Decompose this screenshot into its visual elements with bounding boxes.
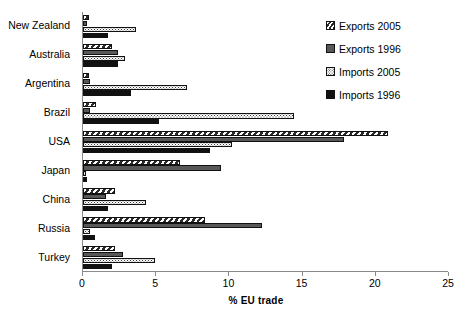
y-axis-label: Brazil (44, 107, 70, 118)
x-tick-mark (155, 272, 156, 276)
bar-chart: New ZealandAustraliaArgentinaBrazilUSAJa… (0, 0, 476, 326)
x-tick-label: 20 (369, 277, 381, 289)
bar (83, 188, 115, 193)
bar (83, 200, 146, 205)
bar (83, 73, 89, 78)
bar (83, 50, 118, 55)
bar (83, 235, 95, 240)
x-axis-title-text: % EU trade (229, 295, 284, 306)
bar (83, 15, 89, 20)
bar (83, 177, 87, 182)
y-axis-label: New Zealand (8, 20, 70, 31)
y-axis-category-labels: New ZealandAustraliaArgentinaBrazilUSAJa… (0, 12, 76, 272)
legend-label: Exports 2005 (339, 20, 401, 32)
bar (83, 44, 112, 49)
bar (83, 246, 115, 251)
legend-item: Imports 2005 (326, 62, 466, 81)
y-axis-label: USA (48, 136, 70, 147)
bar (83, 33, 108, 38)
x-tick-mark (82, 272, 83, 276)
x-axis-title: % EU trade (0, 295, 476, 306)
legend-swatch-icon (326, 90, 335, 99)
bar (83, 142, 232, 147)
bar (83, 108, 90, 113)
bar (83, 131, 388, 136)
legend-swatch-icon (326, 21, 335, 30)
bar (83, 113, 294, 118)
x-tick-mark (302, 272, 303, 276)
x-tick-label: 25 (442, 277, 454, 289)
legend: Exports 2005Exports 1996Imports 2005Impo… (326, 16, 466, 108)
bar (83, 258, 155, 263)
y-axis-label: Russia (38, 223, 70, 234)
bar (83, 21, 87, 26)
y-axis-label: Australia (29, 49, 70, 60)
y-axis-label: Turkey (38, 252, 70, 263)
legend-swatch-icon (326, 67, 335, 76)
bar (83, 171, 86, 176)
x-tick-mark (448, 272, 449, 276)
bar (83, 206, 108, 211)
bar (83, 85, 187, 90)
y-axis-label: China (43, 194, 70, 205)
bar (83, 252, 123, 257)
legend-label: Imports 1996 (339, 89, 400, 101)
x-tick-label: 0 (79, 277, 85, 289)
legend-label: Exports 1996 (339, 43, 401, 55)
bar (83, 194, 106, 199)
bar (83, 79, 90, 84)
bar (83, 119, 159, 124)
x-axis-ticks: 0510152025 (0, 272, 476, 294)
bar (83, 148, 210, 153)
x-tick-label: 10 (223, 277, 235, 289)
legend-item: Exports 2005 (326, 16, 466, 35)
bar (83, 223, 262, 228)
legend-item: Exports 1996 (326, 39, 466, 58)
bar (83, 217, 205, 222)
x-tick-mark (375, 272, 376, 276)
legend-swatch-icon (326, 44, 335, 53)
bar (83, 27, 136, 32)
bar (83, 90, 131, 95)
y-axis-label: Argentina (25, 78, 70, 89)
bar (83, 56, 125, 61)
bar (83, 61, 118, 66)
legend-label: Imports 2005 (339, 66, 400, 78)
x-tick-label: 5 (152, 277, 158, 289)
bar (83, 102, 96, 107)
bar (83, 264, 112, 269)
x-tick-label: 15 (296, 277, 308, 289)
y-axis-label: Japan (41, 165, 70, 176)
bar (83, 137, 344, 142)
bar (83, 229, 90, 234)
bar (83, 160, 180, 165)
x-tick-mark (228, 272, 229, 276)
bar (83, 165, 221, 170)
legend-item: Imports 1996 (326, 85, 466, 104)
